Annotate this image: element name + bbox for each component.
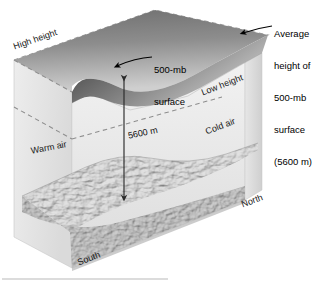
average-height-callout: Average height of 500-mb surface (5600 m… (274, 8, 312, 189)
average-height-line-4: surface (274, 125, 312, 136)
diagram-canvas: Average height of 500-mb surface (5600 m… (0, 0, 318, 287)
average-height-line-5: (5600 m) (274, 157, 312, 168)
average-height-callout-leader (243, 26, 272, 33)
average-height-line-2: height of (274, 61, 312, 72)
surface-callout-line-1: 500-mb (154, 65, 186, 76)
average-height-line-3: 500-mb (274, 93, 312, 104)
surface-callout: 500-mb surface (154, 44, 186, 129)
block-left-face (14, 60, 72, 268)
surface-callout-line-2: surface (154, 97, 186, 108)
block-right-face (245, 53, 262, 200)
average-height-line-1: Average (274, 29, 312, 40)
